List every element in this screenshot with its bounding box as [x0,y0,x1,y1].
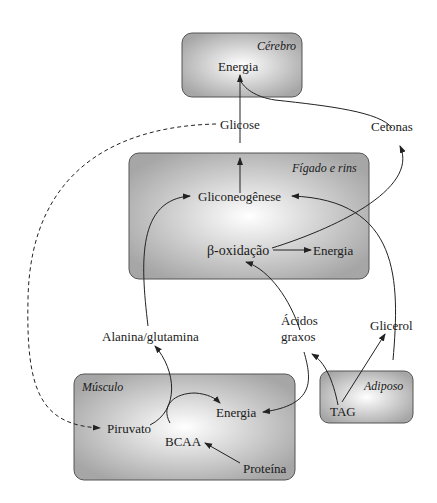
ketones-label: Cetonas [371,120,413,133]
glucose-label: Glicose [220,118,260,131]
fatty-acids-label-2: graxos [281,330,316,343]
alanine-glutamine-label: Alanina/glutamina [102,330,199,343]
muscle-energy: Energia [216,406,256,419]
protein-label: Proteína [243,462,286,475]
liver-energy: Energia [313,244,353,257]
bcaa-label: BCAA [165,435,201,448]
liver-title: Fígado e rins [292,162,357,174]
muscle-title: Músculo [82,381,123,393]
pyruvate-label: Piruvato [107,422,151,435]
brain-title: Cérebro [257,40,296,52]
brain-energy: Energia [218,60,258,73]
beta-oxidation-label: β-oxidação [207,244,269,258]
glycerol-label: Glicerol [370,319,413,332]
gluconeogenesis-label: Gliconeogênese [198,190,281,203]
tag-label: TAG [330,405,356,418]
fatty-acids-label-1: Ácidos [281,314,318,327]
adipose-title: Adiposo [364,380,403,392]
